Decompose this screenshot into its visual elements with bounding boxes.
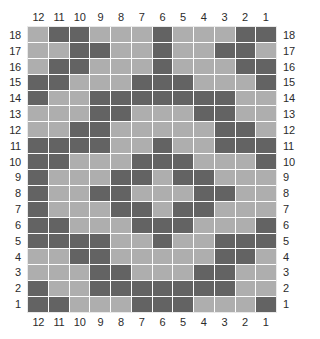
grid-cell[interactable] — [194, 170, 214, 185]
grid-cell[interactable] — [49, 106, 69, 121]
grid-cell[interactable] — [90, 281, 110, 296]
grid-cell[interactable] — [256, 249, 276, 264]
grid-cell[interactable] — [173, 59, 193, 74]
grid-cell[interactable] — [28, 265, 48, 280]
grid-cell[interactable] — [236, 154, 256, 169]
grid-cell[interactable] — [215, 234, 235, 249]
grid-cell[interactable] — [153, 186, 173, 201]
grid-cell[interactable] — [215, 249, 235, 264]
grid-cell[interactable] — [256, 265, 276, 280]
grid-cell[interactable] — [132, 297, 152, 312]
grid-cell[interactable] — [49, 186, 69, 201]
grid-cell[interactable] — [173, 234, 193, 249]
grid-cell[interactable] — [153, 91, 173, 106]
grid-cell[interactable] — [173, 170, 193, 185]
grid-cell[interactable] — [70, 43, 90, 58]
grid-cell[interactable] — [194, 43, 214, 58]
grid-cell[interactable] — [173, 202, 193, 217]
grid-cell[interactable] — [111, 234, 131, 249]
grid-cell[interactable] — [215, 43, 235, 58]
grid-cell[interactable] — [49, 234, 69, 249]
grid-cell[interactable] — [132, 265, 152, 280]
grid-cell[interactable] — [90, 170, 110, 185]
grid-cell[interactable] — [173, 297, 193, 312]
grid-cell[interactable] — [49, 122, 69, 137]
grid-cell[interactable] — [194, 265, 214, 280]
grid-cell[interactable] — [153, 138, 173, 153]
grid-cell[interactable] — [28, 218, 48, 233]
grid-cell[interactable] — [90, 202, 110, 217]
grid-cell[interactable] — [111, 43, 131, 58]
grid-cell[interactable] — [132, 170, 152, 185]
grid-cell[interactable] — [194, 75, 214, 90]
grid-cell[interactable] — [28, 59, 48, 74]
grid-cell[interactable] — [215, 218, 235, 233]
grid-cell[interactable] — [153, 122, 173, 137]
grid-cell[interactable] — [49, 138, 69, 153]
grid-cell[interactable] — [256, 122, 276, 137]
grid-cell[interactable] — [70, 265, 90, 280]
grid-cell[interactable] — [28, 281, 48, 296]
grid-cell[interactable] — [111, 154, 131, 169]
grid-cell[interactable] — [256, 202, 276, 217]
grid-cell[interactable] — [256, 170, 276, 185]
grid-cell[interactable] — [236, 234, 256, 249]
grid-cell[interactable] — [153, 234, 173, 249]
grid-cell[interactable] — [49, 154, 69, 169]
grid-cell[interactable] — [90, 106, 110, 121]
grid-cell[interactable] — [70, 122, 90, 137]
grid-cell[interactable] — [256, 297, 276, 312]
grid-cell[interactable] — [236, 249, 256, 264]
grid-cell[interactable] — [132, 91, 152, 106]
grid-cell[interactable] — [111, 218, 131, 233]
grid-cell[interactable] — [236, 75, 256, 90]
grid-cell[interactable] — [173, 122, 193, 137]
grid-cell[interactable] — [194, 138, 214, 153]
grid-cell[interactable] — [49, 265, 69, 280]
grid-cell[interactable] — [90, 138, 110, 153]
grid-cell[interactable] — [132, 75, 152, 90]
grid-cell[interactable] — [173, 249, 193, 264]
grid-cell[interactable] — [194, 106, 214, 121]
grid-cell[interactable] — [256, 154, 276, 169]
grid-cell[interactable] — [70, 170, 90, 185]
grid-cell[interactable] — [194, 154, 214, 169]
grid-cell[interactable] — [194, 91, 214, 106]
grid-cell[interactable] — [132, 43, 152, 58]
grid-cell[interactable] — [132, 106, 152, 121]
grid-cell[interactable] — [256, 186, 276, 201]
grid-cell[interactable] — [236, 122, 256, 137]
grid-cell[interactable] — [236, 27, 256, 42]
grid-cell[interactable] — [215, 27, 235, 42]
grid-cell[interactable] — [70, 297, 90, 312]
grid-cell[interactable] — [194, 27, 214, 42]
grid-cell[interactable] — [153, 265, 173, 280]
grid-cell[interactable] — [194, 122, 214, 137]
grid-cell[interactable] — [236, 91, 256, 106]
grid-cell[interactable] — [153, 59, 173, 74]
grid-cell[interactable] — [90, 59, 110, 74]
grid-cell[interactable] — [28, 154, 48, 169]
grid-cell[interactable] — [215, 59, 235, 74]
grid-cell[interactable] — [28, 234, 48, 249]
grid-cell[interactable] — [256, 91, 276, 106]
grid-cell[interactable] — [49, 297, 69, 312]
grid-cell[interactable] — [111, 281, 131, 296]
grid-cell[interactable] — [215, 138, 235, 153]
grid-cell[interactable] — [90, 297, 110, 312]
grid-cell[interactable] — [173, 106, 193, 121]
grid-cell[interactable] — [111, 297, 131, 312]
grid-cell[interactable] — [28, 75, 48, 90]
grid-cell[interactable] — [256, 218, 276, 233]
grid-cell[interactable] — [49, 202, 69, 217]
grid-cell[interactable] — [49, 59, 69, 74]
grid-cell[interactable] — [153, 75, 173, 90]
grid-cell[interactable] — [215, 75, 235, 90]
grid-cell[interactable] — [28, 43, 48, 58]
grid-cell[interactable] — [236, 218, 256, 233]
grid-cell[interactable] — [70, 106, 90, 121]
grid-cell[interactable] — [28, 138, 48, 153]
grid-cell[interactable] — [236, 106, 256, 121]
grid-cell[interactable] — [236, 186, 256, 201]
grid-cell[interactable] — [173, 154, 193, 169]
